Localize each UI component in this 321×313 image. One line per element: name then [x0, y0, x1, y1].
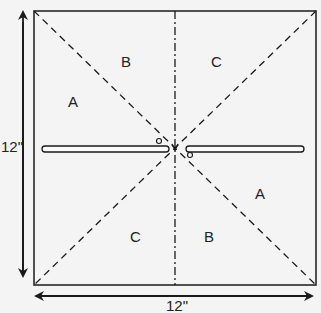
- background: [0, 0, 321, 313]
- left-slot: [42, 146, 169, 152]
- region-label-b-bottom: B: [204, 228, 214, 245]
- region-label-c-top: C: [211, 53, 222, 70]
- region-label-c-bottom: C: [130, 228, 141, 245]
- width-label: 12": [166, 297, 188, 313]
- region-label-a-left: A: [68, 93, 78, 110]
- square-fold-diagram: A B C A C B 12" 12": [0, 0, 321, 313]
- height-label: 12": [1, 138, 23, 155]
- region-label-b-top: B: [121, 53, 131, 70]
- right-slot: [186, 146, 304, 152]
- region-label-a-right: A: [255, 185, 265, 202]
